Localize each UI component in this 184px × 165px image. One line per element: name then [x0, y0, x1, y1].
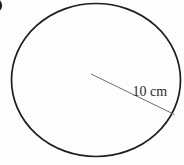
cropped-character-fragment — [0, 1, 1, 10]
circle-figure: 10 cm — [0, 0, 184, 165]
radius-label: 10 cm — [133, 84, 168, 99]
figure-canvas: 10 cm — [0, 0, 184, 165]
circle-outline — [12, 4, 181, 157]
